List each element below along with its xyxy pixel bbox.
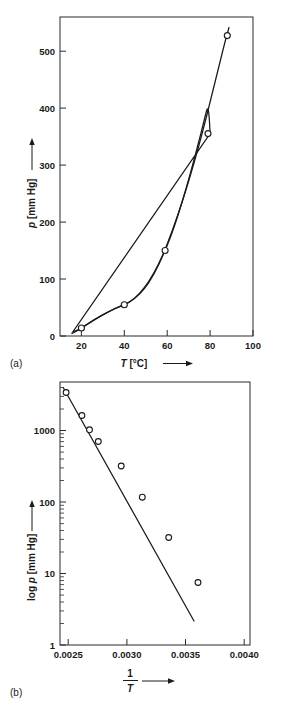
panel-b-y-ticks-minor [60,388,64,624]
panel-a-point [162,248,168,254]
panel-a-point [224,33,230,39]
panel-b-ylabel-arrow-head [29,500,34,507]
panel-b-frame [60,382,250,645]
panel-a-ytick-500: 500 [39,46,55,57]
panel-a-ytick-400: 400 [39,103,55,114]
svg-text:p [mm Hg]: p [mm Hg] [26,179,37,229]
panel-a-ylabel-symbol: p [26,222,37,229]
panel-b-xlabel-arrow-head [168,678,175,683]
panel-b-tag: (b) [10,687,22,698]
panel-b-ytick-1000: 1000 [34,425,55,436]
panel-b-point [195,580,201,586]
panel-a-point [205,131,211,137]
panel-b-ylabel-symbol: p [26,577,37,584]
two-panel-vapour-pressure-figure: 0 100 200 300 400 500 20 40 60 80 100 [0,0,291,702]
panel-b-x-axis-label: 1 T [123,668,175,694]
panel-b-point [87,427,93,433]
panel-b-xtick-0040: 0.0040 [230,649,259,660]
panel-b: 1 10 100 1000 0.0025 0.0030 0.0035 0.004… [0,351,291,702]
panel-a-ytick-300: 300 [39,160,55,171]
panel-a-data-markers [78,33,230,331]
panel-b-plot: 1 10 100 1000 0.0025 0.0030 0.0035 0.004… [0,351,291,702]
panel-b-fit-line [64,388,195,621]
panel-b-y-ticks-major [60,431,66,646]
svg-text:T: T [127,683,134,694]
panel-b-ylabel-unit: [mm Hg] [26,534,37,575]
panel-a-ylabel-arrow-head [29,138,34,145]
panel-b-data-markers [63,390,201,586]
panel-a-plot: 0 100 200 300 400 500 20 40 60 80 100 [0,0,291,351]
panel-a-ytick-200: 200 [39,217,55,228]
panel-b-xlabel-denominator: T [127,683,134,694]
panel-b-xtick-0030: 0.0030 [112,649,141,660]
panel-b-point [63,390,69,396]
panel-b-ytick-100: 100 [39,497,55,508]
panel-a-frame [60,17,253,336]
panel-b-point [118,463,124,469]
panel-b-xtick-0035: 0.0035 [171,649,201,660]
panel-a-point [121,302,127,308]
panel-b-point [139,494,145,500]
svg-text:log p [mm Hg]: log p [mm Hg] [26,534,37,601]
panel-b-ytick-10: 10 [44,568,55,579]
panel-a-y-axis-label: p [mm Hg] [26,138,37,229]
panel-b-xlabel-numerator: 1 [127,668,133,679]
panel-b-x-ticks [68,639,244,645]
panel-b-point [95,439,101,445]
panel-a-y-ticks [60,51,66,336]
panel-a-curve [73,109,210,332]
panel-b-ylabel-prefix: log [26,586,37,601]
panel-b-point [79,413,85,419]
panel-b-xtick-0025: 0.0025 [54,649,84,660]
panel-a-ylabel-unit: [mm Hg] [26,179,37,220]
panel-a-ytick-100: 100 [39,274,55,285]
panel-a: 0 100 200 300 400 500 20 40 60 80 100 [0,0,291,351]
panel-b-y-axis-label: log p [mm Hg] [26,500,37,601]
panel-a-curve-main [72,28,229,334]
panel-b-point [166,535,172,541]
